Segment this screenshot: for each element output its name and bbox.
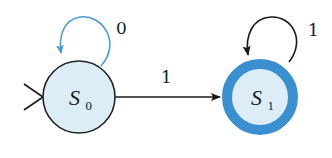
fsa-diagram: 0 1 1 S 0 S 1 [0,0,332,158]
transition-label-s0-s0: 0 [116,18,127,38]
transition-label-s0-s1: 1 [161,67,172,87]
state-s1-accepting: S 1 [227,64,293,130]
state-s1-subscript: 1 [268,98,275,113]
transition-s0-s0: 0 [60,17,126,66]
transition-label-s1-s1: 1 [308,20,319,40]
state-s0: S 0 [43,61,115,133]
state-s0-subscript: 0 [86,98,93,113]
transition-s1-s1: 1 [247,17,318,62]
state-s1-label: S [251,85,262,110]
transition-s0-s1: 1 [115,67,220,97]
start-arrow [24,84,43,110]
state-s0-label: S [69,85,80,110]
